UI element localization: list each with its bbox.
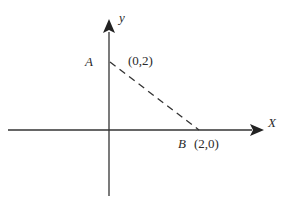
x-axis-label: X bbox=[267, 115, 277, 130]
segment-ab bbox=[110, 62, 199, 130]
y-axis-label: y bbox=[117, 10, 125, 25]
point-a-coords: (0,2) bbox=[128, 53, 153, 68]
point-a-label: A bbox=[84, 54, 93, 69]
coordinate-diagram: y X A (0,2) B (2,0) bbox=[0, 0, 295, 217]
point-b-coords: (2,0) bbox=[194, 136, 219, 151]
y-axis-arrow-icon bbox=[103, 19, 115, 33]
point-b-label: B bbox=[178, 136, 186, 151]
x-axis-arrow-icon bbox=[250, 124, 264, 136]
